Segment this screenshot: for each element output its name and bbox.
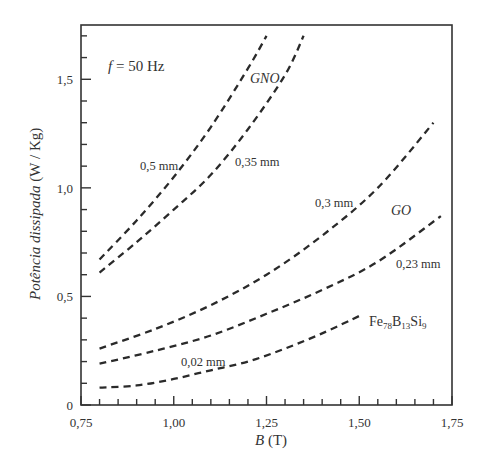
x-axis-title: B (T) xyxy=(255,432,287,449)
y-tick-labels: 00,51,01,5 xyxy=(57,72,73,413)
x-tick-label: 1,00 xyxy=(162,415,185,430)
x-tick-label: 1,75 xyxy=(441,415,464,430)
label-0-3mm: 0,3 mm xyxy=(315,196,353,210)
y-tick-label: 0,5 xyxy=(57,289,73,304)
x-tick-label: 0,75 xyxy=(70,415,93,430)
y-axis-title: Potência dissipada (W / Kg) xyxy=(27,128,44,301)
x-title-var: B xyxy=(255,432,264,448)
curve-series-4 xyxy=(100,316,360,388)
alloy-label: Fe78B13Si9 xyxy=(369,314,427,331)
chart: 00,51,01,5 0,751,001,251,501,75 f = 50 H… xyxy=(0,0,480,470)
go-label: GO xyxy=(391,203,411,218)
curves xyxy=(100,36,441,388)
y-tick-label: 0 xyxy=(67,398,74,413)
x-axis xyxy=(81,396,452,405)
label-0-02mm: 0,02 mm xyxy=(181,355,226,369)
freq-value: = 50 Hz xyxy=(112,58,165,74)
y-title-unit: (W / Kg) xyxy=(27,128,44,186)
gno-label: GNO xyxy=(250,71,280,86)
frequency-annotation: f = 50 Hz xyxy=(108,58,165,74)
alloy-sub-9: 9 xyxy=(422,321,427,331)
label-0-23mm: 0,23 mm xyxy=(396,257,441,271)
y-tick-label: 1,5 xyxy=(57,72,73,87)
y-title-italic: Potência dissipada xyxy=(27,185,43,301)
curve-series-3 xyxy=(100,216,441,364)
label-0-35mm: 0,35 mm xyxy=(235,155,280,169)
x-tick-label: 1,25 xyxy=(255,415,278,430)
alloy-b: B xyxy=(392,314,401,329)
y-tick-label: 1,0 xyxy=(57,181,73,196)
alloy-fe: Fe xyxy=(369,314,383,329)
x-title-unit: (T) xyxy=(264,432,287,449)
y-axis xyxy=(81,36,91,405)
label-0-5mm: 0,5 mm xyxy=(140,159,178,173)
alloy-si: Si xyxy=(410,314,422,329)
x-tick-label: 1,50 xyxy=(348,415,371,430)
x-tick-labels: 0,751,001,251,501,75 xyxy=(70,415,464,430)
